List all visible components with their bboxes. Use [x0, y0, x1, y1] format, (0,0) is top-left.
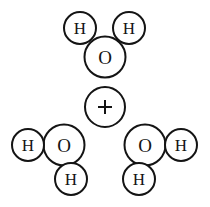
water-molecule-bottom-left: O H H — [12, 125, 87, 196]
hydrogen-atom-bottom-left-below-label: H — [65, 170, 77, 189]
oxygen-atom-top-label: O — [98, 47, 112, 68]
water-molecule-bottom-right: O H H — [123, 125, 197, 196]
hydrogen-atom-bottom-left-side-label: H — [22, 136, 34, 155]
hydrogen-atom-bottom-right-below-label: H — [133, 170, 145, 189]
oxygen-atom-bottom-right-label: O — [138, 135, 152, 156]
molecule-diagram: O H H O H H O H H — [0, 0, 210, 207]
plus-operator — [85, 87, 125, 127]
water-molecule-top: O H H — [64, 12, 145, 78]
hydrogen-atom-top-left-label: H — [74, 19, 86, 38]
oxygen-atom-bottom-left-label: O — [57, 135, 71, 156]
diagram-canvas: O H H O H H O H H — [0, 0, 210, 207]
hydrogen-atom-bottom-right-side-label: H — [175, 136, 187, 155]
hydrogen-atom-top-right-label: H — [123, 19, 135, 38]
